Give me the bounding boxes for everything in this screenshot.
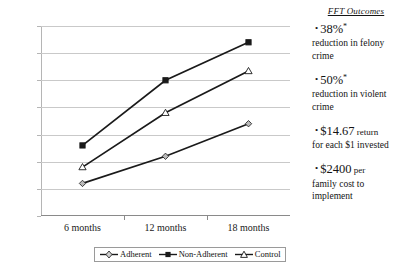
outcome-value: 38% (320, 22, 343, 36)
outcome-description: reduction in violent crime (308, 88, 404, 113)
series-adherent (79, 121, 251, 187)
series-non-adherent (80, 40, 251, 148)
outcome-item: •$2400 perfamily cost to implement (308, 162, 404, 202)
square-marker-icon (158, 250, 178, 259)
data-point-square-marker (80, 143, 85, 148)
legend-item-label: Non-Adherent (179, 249, 228, 259)
data-point-square-marker (163, 78, 168, 83)
outcome-item: •50%*reduction in violent crime (308, 73, 404, 113)
data-point-square-marker (246, 40, 251, 45)
outcome-description: reduction in felony crime (308, 37, 404, 62)
legend-item-adherent: Adherent (99, 249, 152, 259)
bullet-icon: • (315, 74, 318, 84)
outcome-headline: •50%* (308, 73, 404, 88)
outcome-description: family cost to implement (308, 178, 404, 203)
outcome-footnote-marker: * (343, 22, 347, 31)
diamond-marker-icon (99, 250, 119, 259)
plot-area (41, 26, 290, 216)
outcome-headline: •$14.67 return (308, 124, 404, 139)
triangle-marker-icon (234, 250, 254, 259)
outcome-value: $2400 (320, 162, 351, 176)
line-chart: 0.0%5.0%10.0%15.0%20.0%25.0%30.0%35.0% 6… (0, 0, 300, 273)
legend-item-control: Control (234, 249, 281, 259)
outcome-value-suffix: per (351, 165, 365, 175)
y-tick-mark (37, 216, 41, 217)
bullet-icon: • (315, 23, 318, 33)
bullet-icon: • (315, 163, 318, 173)
outcome-value-suffix: return (355, 127, 379, 137)
data-point-triangle-marker (245, 67, 252, 73)
chart-screenshot: 0.0%5.0%10.0%15.0%20.0%25.0%30.0%35.0% 6… (0, 0, 408, 273)
x-axis-label: 6 months (41, 222, 124, 233)
series-lines (41, 26, 290, 216)
x-axis-label: 12 months (124, 222, 207, 233)
fft-outcomes-panel: FFT Outcomes •38%*reduction in felony cr… (300, 0, 408, 273)
outcome-headline: •38%* (308, 22, 404, 37)
data-point-triangle-marker (79, 164, 86, 170)
data-point-diamond-marker (79, 180, 85, 186)
series-line (83, 42, 249, 145)
outcomes-title: FFT Outcomes (308, 6, 404, 16)
outcome-value: $14.67 (320, 124, 354, 138)
x-axis-label: 18 months (207, 222, 290, 233)
data-point-diamond-marker (245, 121, 251, 127)
x-tick-mark (207, 216, 208, 220)
data-point-diamond-marker (162, 153, 168, 159)
bullet-icon: • (315, 125, 318, 135)
outcomes-list: •38%*reduction in felony crime•50%*reduc… (308, 22, 404, 202)
outcome-footnote-marker: * (343, 73, 347, 82)
legend-item-label: Control (255, 249, 281, 259)
legend-item-non-adherent: Non-Adherent (158, 249, 228, 259)
chart-legend: AdherentNon-AdherentControl (94, 247, 286, 262)
outcome-value: 50% (320, 73, 343, 87)
outcome-item: •$14.67 returnfor each $1 invested (308, 124, 404, 152)
outcome-description: for each $1 invested (308, 139, 404, 151)
legend-item-label: Adherent (120, 249, 152, 259)
outcome-headline: •$2400 per (308, 162, 404, 177)
x-tick-mark (124, 216, 125, 220)
outcome-item: •38%*reduction in felony crime (308, 22, 404, 62)
